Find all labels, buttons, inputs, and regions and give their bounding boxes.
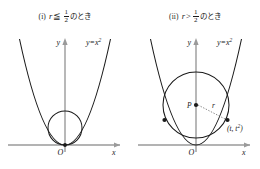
math-figure: (i)r≦12のとき y x O y=x2 (ii)r>12のとき <box>0 0 260 169</box>
x-axis-label: x <box>111 148 116 157</box>
curve-equation-label: y=x2 <box>85 37 102 47</box>
panel-case-2: (ii)r>12のとき y x O y=x2 P <box>130 0 260 169</box>
tangency-point-right-dot <box>225 118 229 122</box>
y-axis-label: y <box>56 38 61 47</box>
radius-label: r <box>212 101 215 110</box>
tangent-point-label: (t, t2) <box>227 123 243 133</box>
curve-equation-label: y=x2 <box>216 37 233 47</box>
center-label: P <box>186 101 192 110</box>
origin-label: O <box>189 148 195 157</box>
y-axis-arrow <box>193 38 198 45</box>
x-axis-arrow <box>114 142 120 147</box>
graph-case-2: y x O y=x2 P r (t, t2) <box>130 0 260 169</box>
y-axis-label: y <box>187 38 192 47</box>
panel-case-1: (i)r≦12のとき y x O y=x2 <box>0 0 130 169</box>
tangency-point-dot <box>63 143 67 147</box>
x-axis-arrow <box>244 142 250 147</box>
x-axis-label: x <box>241 148 246 157</box>
tangency-point-left-dot <box>162 118 166 122</box>
origin-label: O <box>58 148 64 157</box>
graph-case-1: y x O y=x2 <box>0 0 130 169</box>
circle-center-dot <box>194 103 198 107</box>
y-axis-arrow <box>62 38 67 45</box>
